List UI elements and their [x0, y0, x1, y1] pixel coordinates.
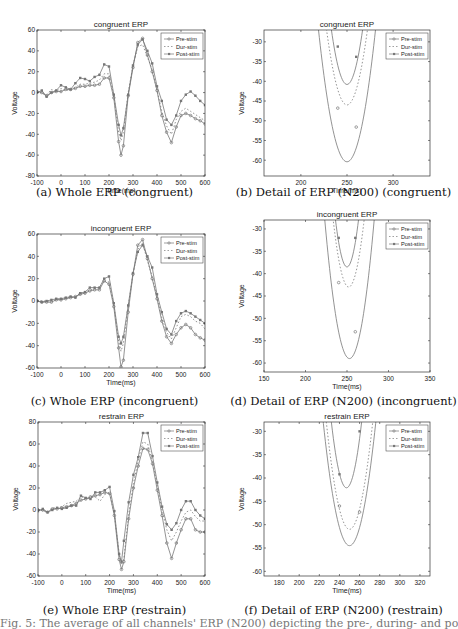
chart-title: restrain ERP — [324, 412, 369, 421]
subfigure-caption-f: (f) Detail of ERP (N200) (restrain) — [229, 603, 458, 617]
x-tick-label: 260 — [354, 579, 365, 586]
svg-text:Pre-stim: Pre-stim — [401, 428, 422, 434]
y-axis-label: Voltage — [238, 487, 246, 510]
x-tick-label: 320 — [415, 579, 426, 586]
y-tick-label: -50 — [253, 521, 263, 528]
y-tick-label: -60 — [253, 568, 263, 575]
figure-caption: Fig. 5: The average of all channels' ERP… — [0, 617, 458, 629]
svg-text:Dur-stim: Dur-stim — [401, 436, 422, 442]
x-tick-label: 220 — [314, 579, 325, 586]
legend: Pre-stimDur-stimPost-stim — [386, 425, 428, 451]
x-tick-label: 280 — [374, 579, 385, 586]
x-axis-label: Time(ms) — [332, 587, 361, 595]
y-tick-label: -45 — [253, 498, 263, 505]
series-line-pre-stim — [264, 0, 430, 546]
y-tick-label: -30 — [253, 428, 263, 435]
x-tick-label: 240 — [334, 579, 345, 586]
x-tick-label: 300 — [394, 579, 405, 586]
x-tick-label: 200 — [294, 579, 305, 586]
x-tick-label: 180 — [274, 579, 285, 586]
svg-text:Post-stim: Post-stim — [401, 443, 425, 449]
y-tick-label: -55 — [253, 544, 263, 551]
chart-f: 180200220240260280300320-60-55-50-45-40-… — [0, 0, 458, 629]
y-tick-label: -40 — [253, 474, 263, 481]
y-tick-label: -35 — [253, 451, 263, 458]
